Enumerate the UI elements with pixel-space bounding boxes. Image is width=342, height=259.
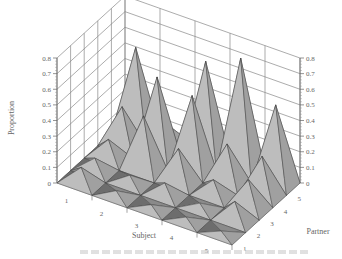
x-axis-title: Subject	[132, 231, 157, 240]
z-tick-label: 0.4	[42, 117, 51, 125]
subject-tick-label: 2	[100, 210, 104, 218]
z-tick-label-right: 0.5	[306, 101, 315, 109]
subject-tick-label: 3	[135, 222, 139, 230]
z-tick-label-right: 0.4	[306, 117, 315, 125]
z-tick-label-right: 0.6	[306, 86, 315, 94]
z-tick-label: 0.1	[42, 164, 51, 172]
3d-pyramid-chart: 00.10.20.30.40.50.60.70.800.10.20.30.40.…	[0, 0, 342, 259]
z-tick-label-right: 0.1	[306, 164, 315, 172]
partner-tick-label: 2	[257, 232, 261, 240]
z-tick-label-right: 0.3	[306, 133, 315, 141]
subject-tick-label: 4	[170, 234, 174, 242]
z-tick-label: 0.6	[42, 86, 51, 94]
z-axis-title: Proportion	[7, 101, 16, 135]
subject-tick-label: 1	[65, 197, 69, 205]
z-tick-label-right: 0.8	[306, 55, 315, 63]
partner-tick-label: 5	[297, 195, 301, 203]
z-axis-right: 00.10.20.30.40.50.60.70.8	[300, 55, 315, 188]
z-tick-label: 0.8	[42, 55, 51, 63]
z-tick-label: 0.5	[42, 101, 51, 109]
z-tick-label: 0.2	[42, 148, 51, 156]
y-axis-title: Partner	[306, 227, 329, 236]
z-tick-label: 0.3	[42, 133, 51, 141]
partner-tick-label: 4	[284, 208, 288, 216]
z-tick-label-right: 0.2	[306, 148, 315, 156]
z-tick-label-right: 0	[306, 180, 310, 188]
z-axis-left: 00.10.20.30.40.50.60.70.8	[42, 55, 57, 188]
partner-tick-label: 3	[270, 220, 274, 228]
figure-caption-illegible	[80, 250, 310, 254]
z-tick-label: 0	[48, 180, 52, 188]
z-tick-label: 0.7	[42, 70, 51, 78]
z-tick-label-right: 0.7	[306, 70, 315, 78]
